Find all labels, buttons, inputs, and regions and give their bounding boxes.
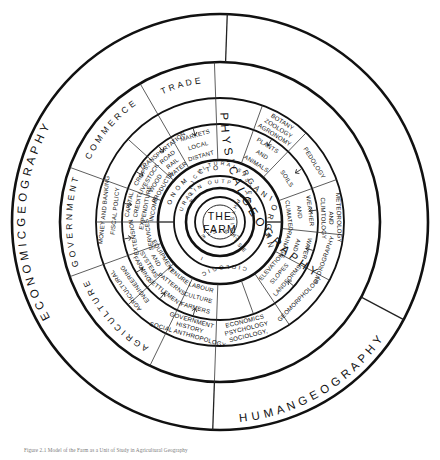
flow-arrow-9 (295, 169, 301, 173)
figure-caption: Figure 2.1 Model of the Farm as a Unit o… (24, 447, 424, 453)
svg-text:LOCAL: LOCAL (187, 140, 209, 152)
ring4-soils: SOILS (279, 169, 294, 188)
inner-band-tick: I (199, 255, 204, 261)
svg-text:AND: AND (328, 211, 335, 225)
svg-text:SOILS: SOILS (279, 169, 294, 188)
ring4-farmers-culture-labour: FARMERSCULTURELABOUR (180, 281, 215, 315)
svg-text:EXTENSION: EXTENSION (128, 219, 140, 256)
center-label-farm: FARM (203, 223, 237, 235)
ring2-label-trade: T R A D E (159, 76, 201, 97)
ring2-label-commerce: C O M M E R C E (83, 98, 138, 161)
svg-text:FISCAL POLICY: FISCAL POLICY (109, 187, 121, 235)
svg-text:METEOROLOGY: METEOROLOGY (335, 193, 344, 243)
ring2-label-government: G O V E R N M E N T (64, 175, 81, 268)
core-band-ecosystem: E C O S Y S T E M (0, 0, 243, 242)
svg-text:AND: AND (296, 205, 304, 219)
svg-text:AND: AND (255, 149, 270, 161)
svg-text:CLIMATE: CLIMATE (284, 200, 293, 227)
figure-canvas: E C O N O M I C G E O G R A P H YH U M A… (0, 0, 440, 460)
outer-label-human-geography: H U M A N G E O G R A P H Y (238, 333, 385, 424)
svg-text:AND: AND (292, 238, 302, 253)
ring3-meteorology-climtology: METEOROLOGYANDCLIMTOLOGY (320, 193, 344, 243)
agricultural-geography-wheel: E C O N O M I C G E O G R A P H YH U M A… (0, 0, 440, 444)
ring3-money-banking: MONEY AND BANKINGFISCAL POLICY (96, 175, 120, 244)
outer-label-economic-geography: E C O N O M I C G E O G R A P H Y (15, 121, 52, 322)
svg-text:CLIMTOLOGY: CLIMTOLOGY (320, 197, 328, 239)
center-label-the: THE (208, 210, 233, 222)
